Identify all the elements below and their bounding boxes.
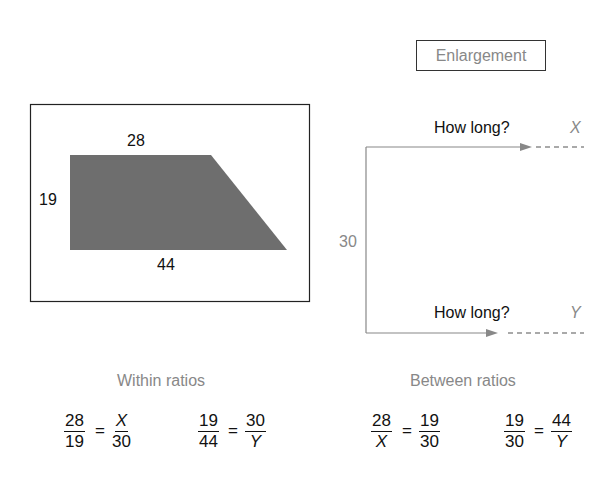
numerator: X xyxy=(115,411,128,432)
between-eq1-lhs: 28 X xyxy=(371,411,392,452)
numerator: 30 xyxy=(245,411,266,432)
enlargement-title-box: Enlargement xyxy=(416,40,546,71)
denominator: 44 xyxy=(199,432,218,452)
variable-x-label: X xyxy=(570,119,581,137)
denominator: Y xyxy=(556,432,567,452)
equals-sign: = xyxy=(534,421,544,441)
within-eq2-rhs: 30 Y xyxy=(245,411,266,452)
enlargement-side-label: 30 xyxy=(339,233,357,251)
denominator: X xyxy=(376,432,387,452)
equals-sign: = xyxy=(402,421,412,441)
denominator: 30 xyxy=(112,432,131,452)
within-eq1-rhs: X 30 xyxy=(112,411,131,452)
numerator: 28 xyxy=(371,411,392,432)
between-ratios-heading: Between ratios xyxy=(410,372,516,390)
denominator: Y xyxy=(250,432,261,452)
variable-y-label: Y xyxy=(570,304,581,322)
between-eq2-rhs: 44 Y xyxy=(551,411,572,452)
between-eq2-lhs: 19 30 xyxy=(504,411,525,452)
numerator: 19 xyxy=(504,411,525,432)
diagram-graphics xyxy=(0,0,610,481)
bottom-question-label: How long? xyxy=(434,304,510,322)
numerator: 19 xyxy=(198,411,219,432)
numerator: 28 xyxy=(64,411,85,432)
within-ratios-heading: Within ratios xyxy=(117,372,205,390)
denominator: 30 xyxy=(420,432,439,452)
numerator: 44 xyxy=(551,411,572,432)
numerator: 19 xyxy=(419,411,440,432)
shape-side-label: 19 xyxy=(39,191,57,209)
trapezoid-shape xyxy=(70,155,287,250)
shape-bottom-label: 44 xyxy=(157,256,175,274)
top-question-label: How long? xyxy=(434,119,510,137)
within-eq2-lhs: 19 44 xyxy=(198,411,219,452)
arrowhead-bottom-icon xyxy=(486,329,498,337)
equals-sign: = xyxy=(95,421,105,441)
denominator: 19 xyxy=(65,432,84,452)
between-eq1-rhs: 19 30 xyxy=(419,411,440,452)
equals-sign: = xyxy=(228,421,238,441)
denominator: 30 xyxy=(505,432,524,452)
within-eq1-lhs: 28 19 xyxy=(64,411,85,452)
arrowhead-top-icon xyxy=(520,143,532,151)
shape-top-label: 28 xyxy=(127,132,145,150)
